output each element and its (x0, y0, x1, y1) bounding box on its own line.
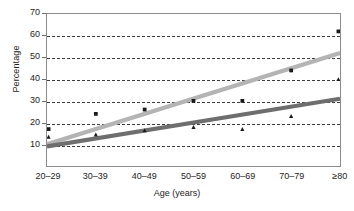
plot-inner (47, 14, 340, 166)
x-axis-tick-label: 70–79 (279, 171, 304, 181)
x-axis-tick-label: 40–49 (132, 171, 157, 181)
x-axis-title: Age (years) (0, 188, 354, 198)
y-axis-tick-label: 10 (14, 140, 40, 149)
y-axis-tick-label: 40 (14, 74, 40, 83)
data-point-triangle (289, 114, 293, 118)
trendline-square (47, 53, 340, 144)
data-point-square (47, 127, 50, 131)
data-point-triangle (94, 133, 98, 137)
x-axis-tick-label: 20–29 (35, 171, 60, 181)
data-point-square (240, 99, 244, 103)
data-point-square (337, 29, 340, 33)
y-axis-tick-label: 50 (14, 52, 40, 61)
data-layer (47, 14, 340, 166)
data-point-triangle (47, 135, 51, 139)
chart-figure: Percentage 10203040506070 20–2930–3940–4… (0, 0, 354, 211)
data-point-square (143, 108, 147, 112)
x-axis-tick-label: 30–39 (83, 171, 108, 181)
data-point-triangle (240, 127, 244, 131)
data-point-square (192, 99, 196, 103)
data-point-square (289, 69, 293, 73)
x-axis-tick-label: 50–59 (181, 171, 206, 181)
y-axis-tick-label: 20 (14, 118, 40, 127)
data-point-triangle (191, 125, 195, 129)
y-axis-tick-label: 60 (14, 30, 40, 39)
x-axis-tick-label: 60–69 (230, 171, 255, 181)
data-point-triangle (336, 77, 340, 81)
x-axis-tick-label: ≥80 (332, 171, 347, 181)
y-axis-tick-label: 70 (14, 8, 40, 17)
y-axis-tick-label: 30 (14, 96, 40, 105)
data-point-square (94, 112, 98, 116)
plot-area (46, 13, 341, 167)
trendline-triangle (47, 99, 340, 147)
